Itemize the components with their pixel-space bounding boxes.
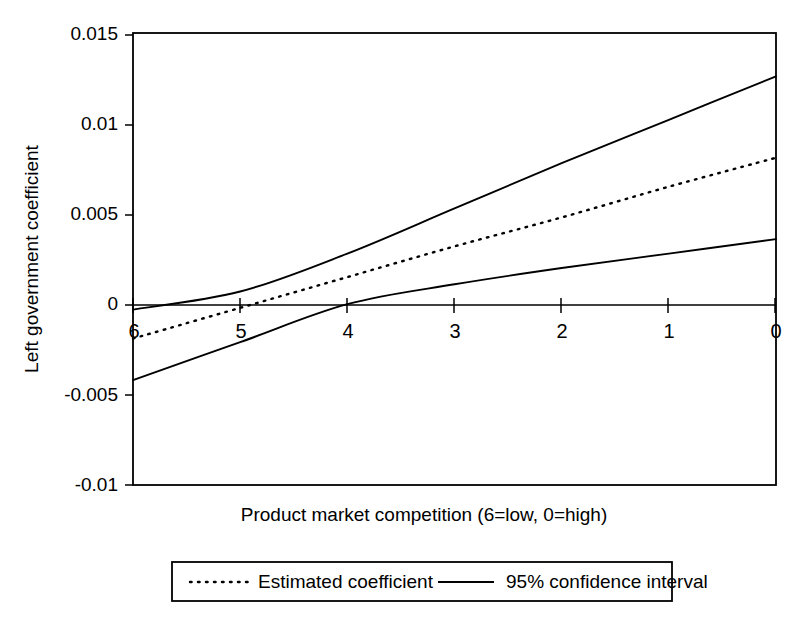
x-tick-label-3: 3 (449, 320, 460, 342)
x-axis-title: Product market competition (6=low, 0=hig… (241, 504, 607, 525)
legend-label-estimated: Estimated coefficient (258, 571, 434, 592)
x-tick-label-1: 5 (235, 320, 246, 342)
x-tick-label-6: 0 (770, 320, 781, 342)
y-tick-label-5: -0.01 (75, 474, 118, 495)
y-tick-label-2: 0.005 (70, 203, 118, 224)
x-tick-label-4: 2 (556, 320, 567, 342)
x-tick-label-5: 1 (663, 320, 674, 342)
series-ci-upper (133, 76, 776, 309)
y-tick-label-1: 0.01 (81, 113, 118, 134)
y-tick-label-3: 0 (107, 293, 118, 314)
chart-figure: 0.015 0.01 0.005 0 -0.005 -0.01 6 5 4 3 … (0, 0, 801, 623)
legend-label-ci: 95% confidence interval (506, 571, 708, 592)
y-tick-label-0: 0.015 (70, 23, 118, 44)
chart-canvas: 0.015 0.01 0.005 0 -0.005 -0.01 6 5 4 3 … (0, 0, 801, 623)
x-tick-label-2: 4 (342, 320, 353, 342)
y-axis-title: Left government coefficient (21, 144, 42, 373)
y-tick-label-4: -0.005 (64, 384, 118, 405)
chart-legend: Estimated coefficient 95% confidence int… (172, 562, 708, 601)
plot-frame (133, 33, 776, 485)
y-axis-ticks (125, 35, 133, 485)
